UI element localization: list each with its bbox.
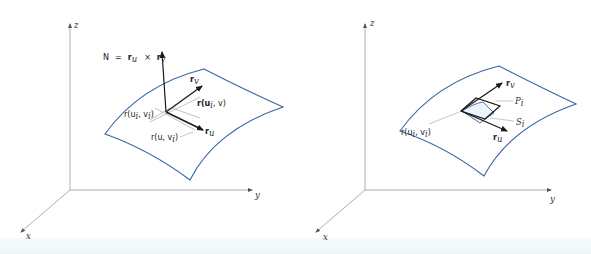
axes: z y x: [316, 18, 555, 242]
point-leader: [429, 112, 459, 124]
left-figure-tangent-vectors: z y x N = ru × rv rv ru r(ui, v) r(ui, v…: [0, 0, 300, 254]
ru-label: ru: [205, 127, 214, 138]
curve-label-r-ui-vi: r(ui, vi): [124, 110, 154, 121]
normal-label: N = ru × rv: [103, 46, 166, 65]
si-leader: [490, 118, 514, 121]
ru-label: ru: [493, 133, 502, 144]
surface-outline: [400, 66, 576, 176]
ru-vector: [166, 112, 203, 130]
rv-label: rv: [190, 75, 199, 86]
right-figure-tangent-plane: z y x rv ru r(ui, vi) Pi Si: [300, 0, 591, 254]
z-axis-label: z: [369, 18, 375, 28]
curve-label-r-ui-v: r(ui, v): [197, 99, 226, 110]
leader-line: [180, 132, 193, 137]
y-axis-label: y: [549, 194, 555, 204]
x-axis-label: x: [26, 231, 31, 241]
z-axis-label: z: [73, 20, 79, 30]
x-axis-label: x: [323, 232, 328, 242]
rv-label: rv: [506, 79, 515, 90]
vectors: [162, 52, 203, 130]
x-axis: [21, 190, 70, 232]
pi-label: Pi: [514, 96, 524, 108]
curve-label-r-u-vi: r(u, vi): [151, 133, 178, 144]
x-axis: [316, 190, 365, 232]
y-axis-label: y: [254, 190, 260, 200]
si-label: Si: [516, 117, 525, 129]
